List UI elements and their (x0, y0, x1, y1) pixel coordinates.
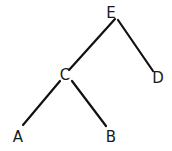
edge-c-b (72, 81, 106, 126)
node-a: A (10, 130, 26, 145)
node-d: D (150, 71, 166, 86)
edge-e-c (69, 19, 115, 70)
edge-e-d (118, 20, 153, 71)
edge-c-a (23, 81, 60, 125)
node-b: B (103, 130, 119, 145)
node-e: E (103, 6, 119, 21)
tree-diagram (0, 0, 172, 151)
node-c: C (57, 68, 73, 83)
